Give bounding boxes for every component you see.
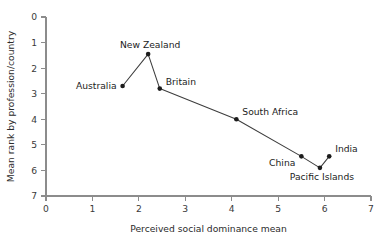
x-axis-title: Perceived social dominance mean: [130, 223, 287, 234]
data-point-label: South Africa: [242, 106, 298, 117]
y-tick-label: 2: [31, 63, 37, 74]
x-tick-label: 6: [322, 203, 328, 214]
x-tick-label: 7: [368, 203, 374, 214]
series-connector-line: [123, 54, 330, 168]
x-tick-label: 1: [89, 203, 95, 214]
y-axis-title: Mean rank by profession/country: [5, 30, 16, 182]
data-point-labels: AustraliaNew ZealandBritainSouth AfricaC…: [76, 39, 358, 182]
y-tick-label: 4: [31, 114, 37, 125]
scatter-chart: 01234567 01234567 AustraliaNew ZealandBr…: [0, 0, 389, 243]
x-tick-label: 2: [136, 203, 142, 214]
x-tick-group: 01234567: [43, 196, 374, 214]
y-tick-label: 3: [31, 88, 37, 99]
data-point-marker: [327, 154, 332, 159]
x-tick-label: 4: [229, 203, 235, 214]
data-point-marker: [157, 86, 162, 91]
data-point-markers: [120, 52, 331, 170]
data-series: AustraliaNew ZealandBritainSouth AfricaC…: [76, 39, 358, 182]
y-axis: 01234567: [31, 11, 46, 201]
data-point-label: India: [335, 143, 358, 154]
data-point-label: Britain: [166, 76, 196, 87]
data-point-marker: [234, 117, 239, 122]
data-point-marker: [146, 52, 151, 57]
x-tick-label: 3: [182, 203, 188, 214]
y-tick-label: 6: [31, 165, 37, 176]
x-tick-label: 5: [275, 203, 281, 214]
data-point-label: Australia: [76, 80, 117, 91]
y-tick-label: 1: [31, 37, 37, 48]
data-point-label: China: [269, 157, 295, 168]
data-point-label: New Zealand: [120, 39, 180, 50]
x-axis: 01234567: [43, 196, 374, 214]
y-tick-group: 01234567: [31, 11, 46, 201]
x-tick-label: 0: [43, 203, 49, 214]
data-point-marker: [299, 154, 304, 159]
data-point-marker: [318, 166, 323, 171]
y-tick-label: 7: [31, 190, 37, 201]
data-point-label: Pacific Islands: [290, 171, 354, 182]
plot-area: 01234567 01234567 AustraliaNew ZealandBr…: [0, 0, 389, 243]
y-tick-label: 5: [31, 139, 37, 150]
y-tick-label: 0: [31, 11, 37, 22]
data-point-marker: [120, 84, 125, 89]
